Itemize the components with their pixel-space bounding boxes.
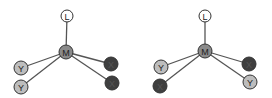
atom-label: L <box>202 12 207 22</box>
atom-node-x1: X <box>153 79 167 93</box>
atom-node-l: L <box>199 10 211 22</box>
atom-label: Y <box>247 78 253 88</box>
atom-label: Y <box>158 63 164 73</box>
atom-label: M <box>62 48 70 58</box>
isomer-1-group: LMYYXX <box>14 10 119 94</box>
atom-label: Y <box>18 64 24 74</box>
atom-label: X <box>108 60 114 70</box>
atom-node-m: M <box>59 45 73 59</box>
atom-node-x1: X <box>104 57 118 71</box>
atom-label: X <box>246 60 252 70</box>
atom-node-y2: Y <box>243 75 257 89</box>
atom-node-y1: Y <box>154 60 168 74</box>
atom-label: Y <box>18 83 24 93</box>
isomer-2-group: LMYXXY <box>153 10 257 93</box>
atom-node-m: M <box>198 44 212 58</box>
atom-label: M <box>201 47 209 57</box>
atom-node-l: L <box>61 10 73 22</box>
atom-label: X <box>109 79 115 89</box>
atom-node-y2: Y <box>14 80 28 94</box>
atom-label: X <box>157 82 163 92</box>
molecular-diagram-canvas: LMYYXX LMYXXY <box>0 0 272 98</box>
atom-label: L <box>64 12 69 22</box>
isomer-diagram-figure: LMYYXX LMYXXY <box>0 0 272 98</box>
atom-node-y1: Y <box>14 61 28 75</box>
atom-node-x2: X <box>105 76 119 90</box>
atom-node-x2: X <box>242 57 256 71</box>
